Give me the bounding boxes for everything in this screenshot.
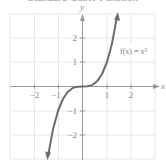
chart-svg: −2 −1 1 2 x 2 1 −1 −2 y f(x) = x³ bbox=[0, 0, 166, 164]
curve-arrow-top-icon bbox=[114, 12, 120, 21]
y-axis-label: y bbox=[79, 2, 84, 12]
x-tick-label: −2 bbox=[30, 90, 40, 100]
x-tick-label: 2 bbox=[129, 90, 134, 100]
x-axis: −2 −1 1 2 x bbox=[10, 81, 165, 100]
x-axis-arrow-icon bbox=[153, 84, 160, 89]
y-tick-label: 1 bbox=[73, 57, 78, 67]
y-tick-label: −2 bbox=[67, 130, 77, 140]
y-axis: 2 1 −1 −2 y bbox=[67, 2, 85, 160]
x-tick-label: 1 bbox=[105, 90, 110, 100]
y-tick-label: 2 bbox=[73, 33, 78, 43]
x-axis-label: x bbox=[160, 81, 165, 91]
y-axis-arrow-icon bbox=[80, 14, 85, 21]
x-tick-label: −1 bbox=[51, 90, 61, 100]
y-tick-label: −1 bbox=[67, 106, 77, 116]
function-label: f(x) = x³ bbox=[120, 47, 148, 56]
